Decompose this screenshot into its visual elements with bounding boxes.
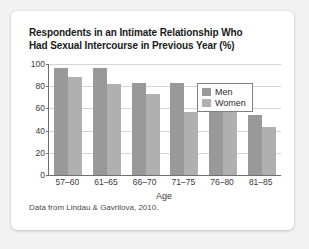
x-axis-tick-label: 81–85 bbox=[241, 177, 280, 187]
x-axis-tick-label: 66–70 bbox=[125, 177, 164, 187]
bar-men-66-70 bbox=[132, 83, 146, 175]
legend-item-women: Women bbox=[202, 97, 246, 108]
bar-women-57-60 bbox=[68, 77, 82, 175]
bar-men-81-85 bbox=[248, 115, 262, 175]
bar-group bbox=[126, 64, 165, 175]
chart-title-line-1: Respondents in an Intimate Relationship … bbox=[29, 27, 243, 38]
legend-swatch-women-icon bbox=[202, 99, 211, 107]
chart-plot-wrapper: 020406080100 57–6061–6566–7071–7576–8081… bbox=[11, 61, 294, 196]
bar-women-61-65 bbox=[107, 84, 121, 175]
bar-women-71-75 bbox=[184, 112, 198, 175]
legend-label-women: Women bbox=[215, 98, 246, 108]
y-axis-tick-labels: 020406080100 bbox=[21, 61, 45, 174]
bar-group bbox=[204, 64, 243, 175]
x-axis-tick-label: 71–75 bbox=[164, 177, 203, 187]
y-axis-tick-label: 80 bbox=[36, 81, 45, 91]
x-axis-tick-labels: 57–6061–6566–7071–7576–8081–85 bbox=[48, 177, 280, 187]
y-axis-tick-label: 60 bbox=[36, 103, 45, 113]
legend-item-men: Men bbox=[202, 86, 246, 97]
x-axis-tick-label: 61–65 bbox=[87, 177, 126, 187]
bar-group bbox=[242, 64, 281, 175]
x-axis-tick-label: 57–60 bbox=[48, 177, 87, 187]
bar-men-76-80 bbox=[209, 111, 223, 175]
chart-title-line-2: Had Sexual Intercourse in Previous Year … bbox=[29, 39, 277, 52]
chart-title: Respondents in an Intimate Relationship … bbox=[29, 26, 277, 52]
source-note: Data from Lindau & Gavrilova, 2010. bbox=[29, 203, 158, 212]
bar-group bbox=[165, 64, 204, 175]
y-axis-tick-label: 100 bbox=[31, 59, 45, 69]
y-axis-tick-label: 20 bbox=[36, 148, 45, 158]
bar-series-layer bbox=[49, 64, 281, 175]
bar-women-81-85 bbox=[262, 127, 276, 175]
y-axis-tick-label: 0 bbox=[40, 170, 45, 180]
x-axis-tick-label: 76–80 bbox=[203, 177, 242, 187]
bar-men-57-60 bbox=[54, 68, 68, 175]
bar-men-71-75 bbox=[170, 83, 184, 175]
x-axis-title: Age bbox=[48, 191, 280, 201]
bar-women-76-80 bbox=[223, 110, 237, 175]
bar-men-61-65 bbox=[93, 68, 107, 175]
figure-card: Respondents in an Intimate Relationship … bbox=[11, 11, 294, 230]
y-axis-tick-label: 40 bbox=[36, 126, 45, 136]
legend-label-men: Men bbox=[215, 87, 233, 97]
bar-group bbox=[88, 64, 127, 175]
plot-area bbox=[48, 64, 281, 176]
chart-legend: Men Women bbox=[197, 83, 253, 112]
bar-group bbox=[49, 64, 88, 175]
y-axis-tick-mark bbox=[46, 175, 49, 176]
legend-swatch-men-icon bbox=[202, 88, 211, 96]
bar-women-66-70 bbox=[146, 94, 160, 175]
